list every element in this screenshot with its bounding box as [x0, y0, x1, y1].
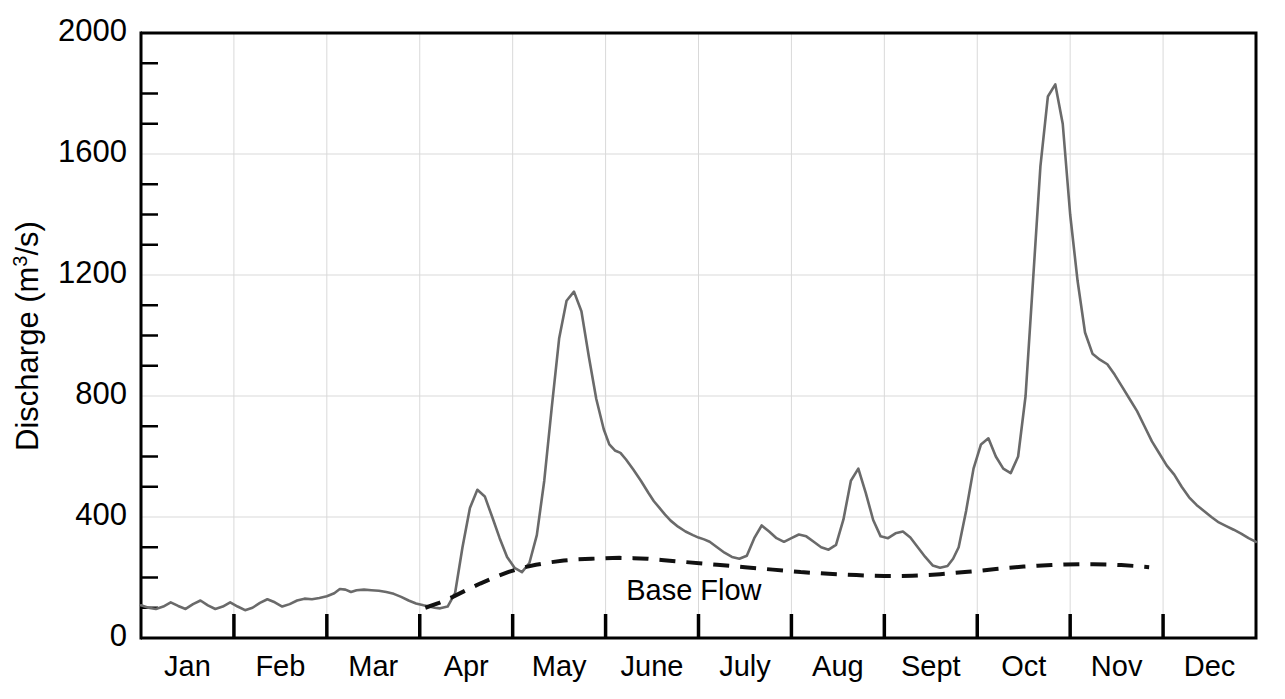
y-tick-label: 800 [75, 376, 127, 411]
x-tick-label-dec: Dec [1184, 650, 1236, 682]
chart-canvas: 0400800120016002000 JanFebMarAprMayJuneJ… [0, 0, 1285, 699]
y-axis-ticks [141, 33, 158, 638]
chart-annotations: Base Flow [626, 574, 762, 606]
x-tick-label-sept: Sept [901, 650, 961, 682]
series-base-flow [425, 558, 1149, 608]
y-axis-title-tail: /s) [10, 221, 45, 255]
annotation-base-flow-label: Base Flow [626, 574, 762, 606]
x-tick-label-june: June [621, 650, 684, 682]
gridlines [141, 33, 1256, 638]
x-tick-label-nov: Nov [1091, 650, 1143, 682]
y-tick-label: 0 [110, 618, 127, 653]
y-axis-title-superscript: 3 [9, 255, 31, 266]
x-tick-label-oct: Oct [1001, 650, 1046, 682]
svg-text:Discharge (m3/s): Discharge (m3/s) [9, 221, 45, 451]
x-tick-label-july: July [719, 650, 771, 682]
hydrograph-chart: 0400800120016002000 JanFebMarAprMayJuneJ… [0, 0, 1285, 699]
y-tick-label: 1600 [58, 134, 127, 169]
x-tick-label-apr: Apr [444, 650, 489, 682]
x-tick-label-mar: Mar [348, 650, 398, 682]
x-axis-ticks [234, 614, 1163, 638]
x-tick-label-may: May [532, 650, 587, 682]
y-tick-label: 400 [75, 497, 127, 532]
x-tick-label-jan: Jan [164, 650, 211, 682]
y-tick-label: 2000 [58, 13, 127, 48]
y-tick-label: 1200 [58, 255, 127, 290]
y-axis-tick-labels: 0400800120016002000 [58, 13, 127, 653]
y-axis-title-base: Discharge (m [10, 267, 45, 451]
y-axis-title: Discharge (m3/s) [9, 221, 45, 451]
x-tick-label-feb: Feb [255, 650, 305, 682]
x-tick-label-aug: Aug [812, 650, 864, 682]
x-axis-month-labels: JanFebMarAprMayJuneJulyAugSeptOctNovDec [164, 650, 1235, 682]
